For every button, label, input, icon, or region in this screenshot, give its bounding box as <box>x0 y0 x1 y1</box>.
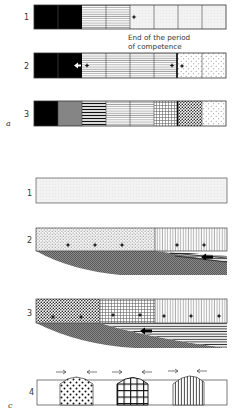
row-label-a2: 2 <box>24 62 29 71</box>
panel-label-c: c <box>8 401 13 410</box>
annotation-line1: End of the period <box>128 33 190 42</box>
arrow-right-icon <box>168 369 178 373</box>
a-row2-bar <box>34 53 226 78</box>
row-label-c4: 4 <box>29 388 34 397</box>
arrow-left-icon <box>87 370 97 374</box>
row-label-c3: 3 <box>27 309 32 318</box>
row-label-c1: 1 <box>27 189 32 198</box>
arrow-right-icon <box>112 370 122 374</box>
panel-label-a: a <box>6 119 11 128</box>
arrow-right-icon <box>56 370 66 374</box>
arrow-left-icon <box>197 369 207 373</box>
c-row3-bar <box>36 299 227 348</box>
row-label-a3: 3 <box>24 110 29 119</box>
a-row3-bar <box>34 101 226 126</box>
panel-c: 1 2 3 <box>8 178 227 410</box>
row-label-a1: 1 <box>24 13 29 22</box>
a-row1-bar <box>34 5 226 29</box>
c-row1-bar <box>36 178 227 203</box>
c-row2-bar <box>36 228 227 275</box>
arrow-left-icon <box>142 370 152 374</box>
row-label-c2: 2 <box>27 236 32 245</box>
annotation-line2: of competence <box>128 42 182 51</box>
developmental-diagram: 1 End of the period of competence 2 <box>0 0 246 416</box>
panel-a: 1 End of the period of competence 2 <box>6 5 226 128</box>
c-row4-bar <box>37 369 227 405</box>
